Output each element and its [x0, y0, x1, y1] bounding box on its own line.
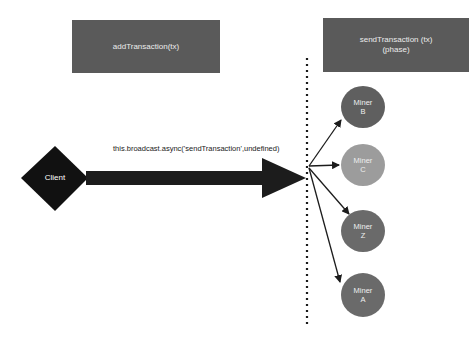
- miner-z-id: Z: [341, 231, 385, 240]
- miner-a-id: A: [341, 295, 385, 304]
- miner-z-label: Miner Z: [341, 222, 385, 240]
- client-label: Client: [35, 173, 75, 182]
- arrow-to-miner-c: [309, 165, 339, 166]
- miner-b-label: Miner B: [341, 98, 385, 116]
- miner-c-id: C: [341, 165, 385, 174]
- miner-c-title: Miner: [341, 156, 385, 165]
- broadcast-message-label: this.broadcast.async('sendTransaction',u…: [113, 144, 279, 153]
- miner-a-label: Miner A: [341, 286, 385, 304]
- miner-b-title: Miner: [341, 98, 385, 107]
- broadcast-arrow: [86, 158, 306, 198]
- diagram-canvas: [0, 0, 474, 337]
- fan-out-arrows: [309, 120, 349, 282]
- miner-b-id: B: [341, 107, 385, 116]
- miner-a-title: Miner: [341, 286, 385, 295]
- miner-z-title: Miner: [341, 222, 385, 231]
- miner-c-label: Miner C: [341, 156, 385, 174]
- arrow-to-miner-b: [309, 120, 341, 166]
